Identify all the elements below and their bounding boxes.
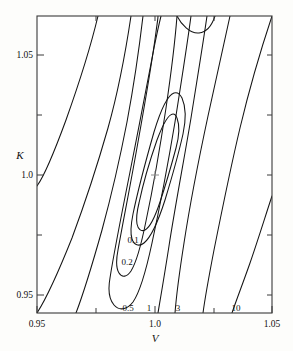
x-tick-label-0: 0.95 (29, 319, 46, 329)
x-tick-label-1: 1.0 (149, 319, 161, 329)
contour-label-10: 10 (232, 303, 242, 313)
y-tick-label-0: 0.95 (16, 290, 33, 300)
contour-label-0_1: 0.1 (127, 235, 138, 245)
y-tick-label-2: 1.05 (16, 50, 33, 60)
x-axis-title: V (152, 332, 160, 344)
contour-figure: 0.95 1.0 1.05 0.95 1.0 1.05 V K 0.1 0.2 … (0, 0, 293, 351)
contour-plot-svg: 0.95 1.0 1.05 0.95 1.0 1.05 V K 0.1 0.2 … (0, 0, 293, 351)
contour-label-3: 3 (176, 303, 181, 313)
contour-label-0_2: 0.2 (121, 257, 132, 267)
x-tick-label-2: 1.05 (264, 319, 281, 329)
y-axis-title: K (15, 149, 24, 161)
contour-label-1: 1 (147, 303, 152, 313)
plot-background (37, 16, 272, 313)
y-tick-label-1: 1.0 (21, 170, 33, 180)
contour-label-0_5: 0.5 (122, 303, 134, 313)
